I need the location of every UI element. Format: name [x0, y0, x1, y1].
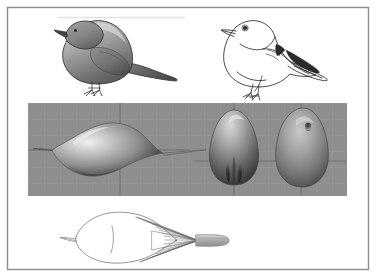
- bird-modeling-figure: [0, 0, 376, 277]
- wire-tail-stub: [196, 235, 229, 247]
- egg-back-tail-dimple: [305, 122, 311, 129]
- wire-tail-pivot: [175, 239, 177, 241]
- lineart-eye: [243, 26, 247, 30]
- modeling-viewport: [28, 103, 347, 196]
- bird-eye: [74, 29, 77, 32]
